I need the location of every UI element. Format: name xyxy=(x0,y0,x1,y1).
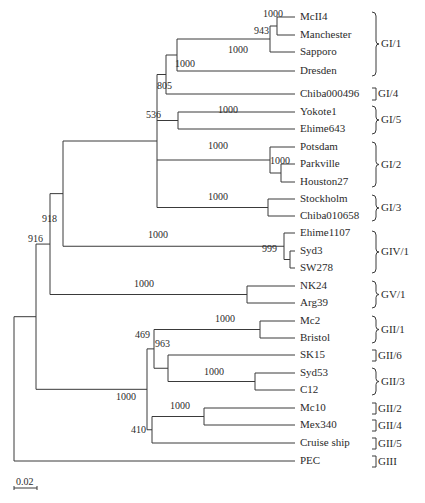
leaf-label: Sapporo xyxy=(300,45,337,57)
leaf-label: Ehime1107 xyxy=(300,226,350,238)
phylogenetic-tree xyxy=(0,0,425,503)
leaf-label: Syd53 xyxy=(300,366,328,378)
leaf-label: Mc10 xyxy=(300,401,326,413)
leaf-label: C12 xyxy=(300,383,318,395)
leaf-label: SW278 xyxy=(300,261,333,273)
genogroup-label: GI/4 xyxy=(378,87,398,99)
leaf-label: Stockholm xyxy=(300,192,348,204)
leaf-label: Cruise ship xyxy=(300,436,350,448)
genogroup-label: GI/2 xyxy=(381,158,401,170)
leaf-label: NK24 xyxy=(300,279,327,291)
genogroup-label: GII/1 xyxy=(381,323,405,335)
leaf-label: Arg39 xyxy=(300,296,328,308)
leaf-label: Parkville xyxy=(300,157,340,169)
genogroup-label: GII/5 xyxy=(378,437,402,449)
leaf-label: Dresden xyxy=(300,64,337,76)
leaf-label: McII4 xyxy=(300,10,328,22)
leaf-label: Syd3 xyxy=(300,244,323,256)
bootstrap-value: 410 xyxy=(131,424,146,435)
leaf-label: Ehime643 xyxy=(300,122,345,134)
genogroup-label: GIII xyxy=(378,455,397,467)
bootstrap-value: 1000 xyxy=(116,391,136,402)
bootstrap-value: 1000 xyxy=(148,229,168,240)
leaf-label: Chiba010658 xyxy=(300,209,359,221)
leaf-label: SK15 xyxy=(300,348,325,360)
bootstrap-value: 1000 xyxy=(204,366,224,377)
bootstrap-value: 1000 xyxy=(263,8,283,19)
bootstrap-value: 1000 xyxy=(270,155,290,166)
genogroup-label: GI/5 xyxy=(381,113,401,125)
bootstrap-value: 999 xyxy=(262,243,277,254)
bootstrap-value: 1000 xyxy=(215,313,235,324)
bootstrap-value: 918 xyxy=(42,213,57,224)
bootstrap-value: 805 xyxy=(157,80,172,91)
leaf-label: Yokote1 xyxy=(300,105,337,117)
scale-bar-label: 0.02 xyxy=(16,476,34,487)
leaf-label: Mc2 xyxy=(300,314,320,326)
bootstrap-value: 1000 xyxy=(228,44,248,55)
leaf-label: Houston27 xyxy=(300,175,348,187)
genogroup-label: GI/1 xyxy=(381,37,401,49)
genogroup-label: GII/4 xyxy=(378,419,402,431)
genogroup-label: GV/1 xyxy=(381,288,405,300)
bootstrap-value: 1000 xyxy=(170,400,190,411)
leaf-label: Potsdam xyxy=(300,140,338,152)
bootstrap-value: 1000 xyxy=(208,191,228,202)
bootstrap-value: 1000 xyxy=(134,278,154,289)
genogroup-label: GIV/1 xyxy=(381,245,409,257)
genogroup-label: GII/3 xyxy=(381,375,405,387)
leaf-label: Bristol xyxy=(300,331,330,343)
leaf-label: PEC xyxy=(300,454,320,466)
leaf-label: Chiba000496 xyxy=(300,87,359,99)
leaf-label: Mex340 xyxy=(300,418,337,430)
bootstrap-value: 1000 xyxy=(218,104,238,115)
bootstrap-value: 469 xyxy=(135,329,150,340)
bootstrap-value: 963 xyxy=(155,338,170,349)
bootstrap-value: 1000 xyxy=(208,140,228,151)
leaf-label: Manchester xyxy=(300,28,351,40)
genogroup-label: GII/2 xyxy=(378,402,402,414)
genogroup-label: GI/3 xyxy=(381,201,401,213)
bootstrap-value: 536 xyxy=(146,109,161,120)
bootstrap-value: 1000 xyxy=(175,58,195,69)
genogroup-label: GII/6 xyxy=(378,349,402,361)
bootstrap-value: 916 xyxy=(28,233,43,244)
bootstrap-value: 943 xyxy=(254,25,269,36)
